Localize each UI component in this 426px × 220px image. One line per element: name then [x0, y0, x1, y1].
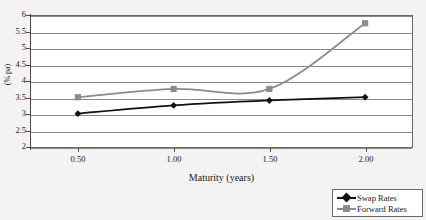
gridline-4 — [31, 82, 412, 83]
y-tick-label-5.5: 5.5 — [0, 27, 26, 36]
y-tick-5.5 — [26, 32, 31, 33]
diamond-marker-icon — [342, 193, 352, 203]
y-tick-label-2: 2 — [0, 142, 26, 151]
gridline-5 — [31, 49, 412, 50]
gridline-2.5 — [31, 132, 412, 133]
y-tick-label-2.5: 2.5 — [0, 126, 26, 135]
y-tick-label-6: 6 — [0, 10, 26, 19]
y-tick-3 — [26, 114, 31, 115]
legend-item-swap-rates[interactable]: Swap Rates — [336, 192, 419, 203]
gridline-3 — [31, 115, 412, 116]
legend-key-forward-rates — [336, 203, 357, 214]
legend-label-forward-rates: Forward Rates — [357, 204, 407, 214]
x-tick-0.50 — [78, 148, 79, 152]
x-tick-label-2.00: 2.00 — [344, 154, 388, 164]
square-marker-icon — [343, 205, 350, 212]
x-tick-label-1.50: 1.50 — [248, 154, 292, 164]
x-axis-title: Maturity (years) — [30, 172, 413, 184]
y-axis-title: (% pa) — [3, 52, 12, 98]
x-tick-2.00 — [366, 148, 367, 152]
y-tick-label-3: 3 — [0, 109, 26, 118]
gridline-6 — [31, 16, 412, 17]
gridline-4.5 — [31, 66, 412, 67]
legend-key-swap-rates — [336, 192, 357, 203]
y-tick-3.5 — [26, 98, 31, 99]
legend-label-swap-rates: Swap Rates — [357, 193, 397, 203]
line-chart: 6 5.5 5 4.5 4 3.5 3 2.5 2 (% pa) 0.50 1.… — [0, 0, 426, 220]
chart-legend: Swap Rates Forward Rates — [332, 189, 423, 217]
x-tick-1.50 — [270, 148, 271, 152]
y-tick-6 — [26, 15, 31, 16]
plot-area — [30, 15, 413, 148]
legend-item-forward-rates[interactable]: Forward Rates — [336, 203, 419, 214]
gridline-5.5 — [31, 33, 412, 34]
x-tick-label-1.00: 1.00 — [152, 154, 196, 164]
y-tick-2.5 — [26, 131, 31, 132]
y-tick-5 — [26, 48, 31, 49]
gridline-2 — [31, 148, 412, 149]
y-tick-4.5 — [26, 65, 31, 66]
y-tick-2 — [26, 147, 31, 148]
x-tick-label-0.50: 0.50 — [56, 154, 100, 164]
y-tick-4 — [26, 81, 31, 82]
gridline-3.5 — [31, 99, 412, 100]
x-tick-1.00 — [174, 148, 175, 152]
